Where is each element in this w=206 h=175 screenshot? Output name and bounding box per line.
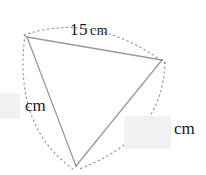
top-side-length-label: 15cm: [70, 21, 108, 38]
vertex-bottom-dot: [75, 165, 77, 167]
vertex-right-dot: [161, 59, 163, 61]
vertex-top-left-dot: [26, 36, 28, 38]
right-side-unit-label: cm: [174, 120, 195, 137]
left-side-unit-label: cm: [25, 97, 46, 114]
top-side-length-unit: cm: [90, 23, 108, 38]
right-side-answer-box[interactable]: [124, 116, 171, 149]
geometry-figure: 15cm cm cm: [0, 0, 206, 175]
left-side-answer-box[interactable]: [0, 93, 20, 119]
top-side-length-value: 15: [70, 20, 88, 39]
